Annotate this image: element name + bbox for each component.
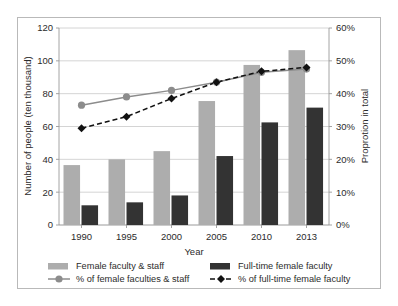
- y-axis-title: Number of people (ten thousand): [22, 56, 33, 195]
- x-tick-label: 2013: [296, 231, 317, 242]
- legend-label: % of female faculties & staff: [76, 274, 190, 284]
- series-marker: [168, 87, 175, 94]
- y-tick-label: 100: [37, 55, 53, 66]
- bar: [217, 156, 234, 225]
- legend-label: % of full-time female faculty: [238, 274, 351, 284]
- legend-item: Female faculty & staff: [48, 261, 165, 271]
- bar: [244, 65, 261, 225]
- y2-tick-label: 60%: [336, 22, 356, 33]
- y-axis-tick-labels: 020406080100120: [37, 22, 53, 230]
- y2-tick-label: 20%: [336, 154, 356, 165]
- bar: [154, 151, 171, 225]
- y2-tick-label: 10%: [336, 187, 356, 198]
- bar: [172, 195, 189, 225]
- legend-item: Full-time female faculty: [210, 261, 333, 271]
- right-axis: [329, 28, 332, 225]
- legend-label: Full-time female faculty: [238, 261, 333, 271]
- legend-label: Female faculty & staff: [76, 261, 165, 271]
- x-tick-label: 1995: [116, 231, 137, 242]
- y2-tick-label: 50%: [336, 55, 356, 66]
- bar: [64, 165, 81, 225]
- x-tick-label: 1990: [71, 231, 92, 242]
- series-marker: [78, 102, 85, 109]
- left-axis: [56, 28, 59, 225]
- legend-swatch: [48, 263, 68, 270]
- y2-tick-label: 0%: [336, 219, 350, 230]
- series-marker: [123, 93, 130, 100]
- y-tick-label: 40: [42, 154, 53, 165]
- x-tick-label: 2010: [251, 231, 272, 242]
- bar: [199, 101, 216, 225]
- legend-swatch: [210, 263, 230, 270]
- y-tick-label: 60: [42, 121, 53, 132]
- y-tick-label: 0: [48, 219, 53, 230]
- bar: [127, 202, 144, 225]
- bar: [82, 205, 99, 225]
- legend-item: % of full-time female faculty: [210, 274, 351, 284]
- bar: [262, 122, 279, 225]
- x-tick-label: 2000: [161, 231, 182, 242]
- y-tick-label: 80: [42, 88, 53, 99]
- bar: [289, 50, 306, 225]
- y2-tick-label: 40%: [336, 88, 356, 99]
- x-tick-label: 2005: [206, 231, 227, 242]
- x-axis-title: Year: [184, 246, 203, 257]
- chart-frame: 020406080100120 0%10%20%30%40%50%60% 199…: [17, 17, 381, 289]
- y2-tick-label: 30%: [336, 121, 356, 132]
- y2-axis-title: Proprotion in total: [359, 89, 370, 163]
- bar: [307, 108, 324, 225]
- bar: [109, 159, 126, 225]
- chart-figure: 020406080100120 0%10%20%30%40%50%60% 199…: [0, 0, 398, 306]
- chart-canvas: 020406080100120 0%10%20%30%40%50%60% 199…: [18, 18, 380, 288]
- legend-marker: [217, 275, 225, 283]
- chart-legend: Female faculty & staffFull-time female f…: [48, 261, 351, 284]
- legend-item: % of female faculties & staff: [48, 274, 190, 284]
- y2-axis-tick-labels: 0%10%20%30%40%50%60%: [336, 22, 356, 230]
- legend-marker: [55, 275, 62, 282]
- y-tick-label: 120: [37, 22, 53, 33]
- y-tick-label: 20: [42, 187, 53, 198]
- x-axis-tick-labels: 199019952000200520102013: [71, 225, 317, 242]
